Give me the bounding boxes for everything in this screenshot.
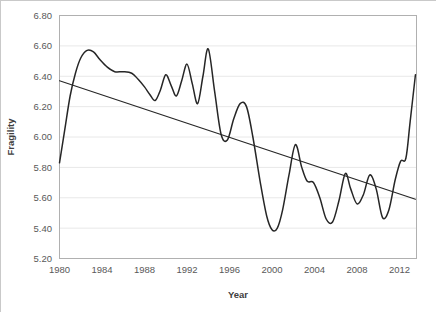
y-tick-label: 6.80 (34, 10, 53, 21)
y-tick-label: 6.20 (34, 101, 53, 112)
x-axis-tick-labels: 198019841988199219962000200420082012 (49, 264, 410, 275)
fragility-line-chart: 6.806.606.406.206.005.805.605.405.20 198… (1, 1, 436, 312)
x-tick-label: 2008 (346, 264, 367, 275)
x-tick-label: 1988 (134, 264, 155, 275)
x-tick-label: 1980 (49, 264, 70, 275)
y-tick-label: 5.40 (34, 223, 53, 234)
y-tick-label: 6.60 (34, 40, 53, 51)
x-tick-label: 1996 (219, 264, 240, 275)
y-axis-title: Fragility (5, 118, 16, 156)
x-tick-label: 1984 (91, 264, 112, 275)
y-tick-label: 5.80 (34, 162, 53, 173)
x-axis-title: Year (228, 289, 248, 300)
y-tick-label: 6.00 (34, 131, 53, 142)
y-tick-label: 5.60 (34, 192, 53, 203)
y-tick-label: 5.20 (34, 253, 53, 264)
chart-container: 6.806.606.406.206.005.805.605.405.20 198… (0, 0, 436, 312)
y-tick-label: 6.40 (34, 71, 53, 82)
x-tick-label: 2004 (304, 264, 325, 275)
x-tick-label: 1992 (176, 264, 197, 275)
y-axis-tick-labels: 6.806.606.406.206.005.805.605.405.20 (34, 10, 53, 264)
x-tick-label: 2000 (261, 264, 282, 275)
x-tick-label: 2012 (389, 264, 410, 275)
